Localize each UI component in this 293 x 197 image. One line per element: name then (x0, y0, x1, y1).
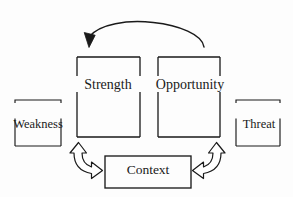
opportunity-to-strength-arc-icon (84, 22, 204, 48)
opportunity-context-double-arrow-icon (193, 143, 226, 179)
strength-context-double-arrow-icon (70, 143, 103, 179)
opportunity-label: Opportunity (147, 78, 233, 92)
weakness-label: Weakness (4, 118, 72, 131)
threat-label: Threat (228, 118, 290, 131)
opportunity-box-shape[interactable] (158, 57, 220, 137)
swot-context-diagram: Weakness Strength Opportunity Threat Con… (0, 0, 293, 197)
strength-label: Strength (70, 78, 146, 92)
strength-box-shape[interactable] (77, 57, 140, 137)
context-label: Context (110, 163, 186, 177)
